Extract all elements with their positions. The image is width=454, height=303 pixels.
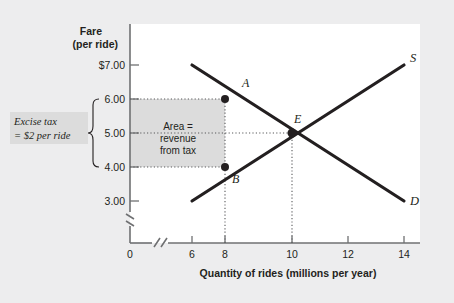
y-tick-label-6: 6.00 xyxy=(105,93,126,105)
area-label-line3: from tax xyxy=(160,145,196,156)
origin-label: 0 xyxy=(127,248,133,260)
point-a-dot xyxy=(221,95,229,103)
y-tick-label-4: 4.00 xyxy=(105,161,126,173)
x-tick-label-6: 6 xyxy=(189,248,195,260)
x-tick-label-12: 12 xyxy=(342,248,354,260)
area-label-line1: Area = xyxy=(163,121,193,132)
y-axis-title-line1: Fare xyxy=(80,25,102,37)
economics-excise-tax-figure: $7.00 6.00 5.00 4.00 3.00 6 8 10 12 14 0… xyxy=(0,0,454,303)
supply-demand-chart: $7.00 6.00 5.00 4.00 3.00 6 8 10 12 14 0… xyxy=(0,0,454,303)
y-tick-label-5: 5.00 xyxy=(105,127,126,139)
demand-curve-label: D xyxy=(409,194,419,208)
point-e-label: E xyxy=(293,112,302,126)
point-a-label: A xyxy=(241,76,250,90)
area-label-line2: revenue xyxy=(160,133,197,144)
y-axis-title-line2: (per ride) xyxy=(72,38,118,50)
y-tick-label-7: $7.00 xyxy=(99,59,125,71)
excise-tax-brace xyxy=(88,99,99,167)
supply-curve-label: S xyxy=(410,51,417,65)
y-tick-label-3: 3.00 xyxy=(105,195,126,207)
excise-tax-callout-line2: = $2 per ride xyxy=(14,130,71,141)
x-tick-label-14: 14 xyxy=(398,248,410,260)
x-axis-title: Quantity of rides (millions per year) xyxy=(200,267,377,279)
point-e-dot xyxy=(288,129,297,138)
point-b-label: B xyxy=(232,172,240,186)
point-b-dot xyxy=(221,163,229,171)
x-tick-label-10: 10 xyxy=(286,248,298,260)
excise-tax-callout-line1: Excise tax xyxy=(13,116,57,127)
x-tick-label-8: 8 xyxy=(222,248,228,260)
